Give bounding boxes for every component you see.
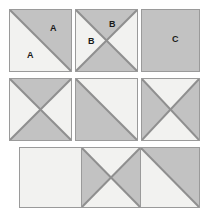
tile-r1c1-label-upper: A bbox=[50, 24, 57, 33]
tile-r1c2-label-left: B bbox=[88, 37, 95, 46]
tile-r2c2-graphic bbox=[76, 79, 137, 140]
triangle-right bbox=[111, 148, 140, 207]
tile-r1c1[interactable]: A A bbox=[9, 9, 72, 72]
tile-r2c3-graphic bbox=[142, 79, 199, 140]
tile-r3c3[interactable] bbox=[140, 147, 200, 208]
triangle-top bbox=[76, 10, 137, 41]
tile-r1c2-graphic bbox=[76, 10, 137, 71]
tile-r1c3-label-center: C bbox=[172, 35, 179, 44]
tile-r2c2[interactable] bbox=[75, 78, 138, 141]
tile-r1c3[interactable]: C bbox=[141, 9, 200, 72]
triangle-bottom bbox=[10, 110, 71, 141]
tile-r2c3[interactable] bbox=[141, 78, 200, 141]
tile-r2c1[interactable] bbox=[9, 78, 72, 141]
tile-r1c1-label-lower: A bbox=[27, 51, 34, 60]
triangle-right bbox=[171, 79, 200, 140]
tile-r3c2-graphic bbox=[82, 148, 140, 207]
triangle-bottom bbox=[76, 41, 137, 72]
solid-fill bbox=[20, 148, 81, 207]
tile-r1c1-graphic bbox=[10, 10, 71, 71]
triangle-left bbox=[82, 148, 111, 207]
tile-r3c3-graphic bbox=[141, 148, 199, 207]
tile-r3c2[interactable] bbox=[81, 147, 141, 208]
tile-r1c2[interactable]: B B bbox=[75, 9, 138, 72]
tile-pattern-figure: A A B B C bbox=[0, 0, 209, 218]
triangle-left bbox=[142, 79, 171, 140]
solid-fill bbox=[142, 10, 199, 71]
tile-r1c3-graphic bbox=[142, 10, 199, 71]
tile-r2c1-graphic bbox=[10, 79, 71, 140]
triangle-top bbox=[10, 79, 71, 110]
tile-r1c2-label-top: B bbox=[109, 20, 116, 29]
tile-r3c1-graphic bbox=[20, 148, 81, 207]
tile-r3c1[interactable] bbox=[19, 147, 82, 208]
